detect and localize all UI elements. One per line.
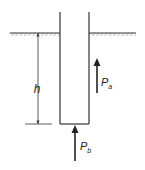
pile-diagram: h Pa Pb (0, 0, 145, 170)
pile (60, 12, 89, 124)
dimension-arrow-bottom-icon (37, 121, 40, 125)
depth-dimension (25, 33, 52, 124)
arrow-up-icon (72, 125, 79, 133)
arrow-up-icon (94, 58, 101, 66)
base-force-label: Pb (80, 140, 91, 154)
depth-label: h (34, 82, 41, 96)
side-force-arrow (94, 58, 101, 93)
side-force-label: Pa (101, 76, 112, 90)
base-force-arrow (72, 125, 79, 161)
ground-surface-left (10, 33, 60, 36)
ground-surface-right (89, 33, 136, 36)
